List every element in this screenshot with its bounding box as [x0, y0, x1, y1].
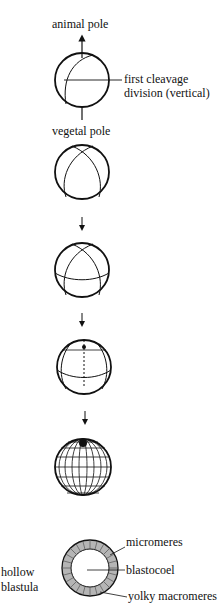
- animal-pole-label: animal pole: [52, 18, 108, 31]
- stage-four-cell: [55, 243, 109, 297]
- hollow-label: hollow: [1, 566, 34, 579]
- blastocoel-label: blastocoel: [126, 564, 175, 577]
- first-cleavage-label-2: division (vertical): [124, 87, 210, 100]
- stage-morula: [55, 439, 111, 495]
- stage-two-cell: [55, 145, 109, 199]
- blastula-label: blastula: [1, 581, 38, 594]
- stage-egg: [55, 38, 122, 120]
- vegetal-pole-label: vegetal pole: [52, 125, 110, 138]
- stage-eight-cell: [57, 340, 111, 394]
- first-cleavage-label-1: first cleavage: [124, 73, 188, 86]
- stage-blastula: [62, 540, 127, 597]
- micromeres-label: micromeres: [126, 536, 183, 549]
- yolky-macromeres-label: yolky macromeres: [128, 590, 217, 603]
- cleavage-curve: [65, 55, 93, 104]
